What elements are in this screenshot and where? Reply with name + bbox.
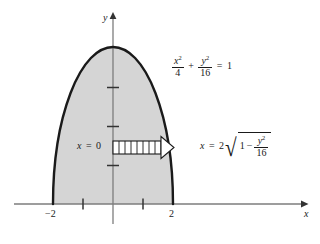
- x-term-denominator: 4: [172, 68, 184, 79]
- left-bound-equals: =: [84, 140, 94, 151]
- ellipse-equation-label: x2 4 + y2 16 = 1: [172, 55, 232, 79]
- x-axis-arrowhead: [301, 200, 309, 207]
- y-term-denominator: 16: [198, 68, 212, 79]
- right-bound-variable: x: [200, 140, 204, 151]
- y-axis-label: y: [103, 12, 107, 23]
- equals-sign: =: [215, 60, 225, 71]
- radicand-fraction-denominator: 16: [254, 148, 268, 159]
- radicand: 1−y216: [238, 132, 272, 159]
- left-bound-label: x = 0: [77, 141, 101, 151]
- ellipse-figure: y x −2 2 x2 4 + y2 16 = 1 x = 0 x = 2√1−…: [0, 0, 320, 244]
- x-tick-label-two: 2: [169, 208, 174, 219]
- equation-rhs: 1: [227, 60, 232, 71]
- right-bound-equals: =: [207, 140, 217, 151]
- radicand-fraction: y216: [254, 135, 268, 159]
- x-tick-label-minus-two: −2: [45, 208, 56, 219]
- square-root: √1−y216: [224, 133, 271, 160]
- y-axis-arrowhead: [110, 12, 117, 19]
- plus-sign: +: [186, 60, 196, 71]
- x-axis-label: x: [304, 208, 308, 219]
- right-bound-label: x = 2√1−y216: [200, 133, 271, 160]
- radicand-minus: −: [245, 140, 255, 151]
- radical-sign: √: [225, 135, 237, 160]
- left-bound-variable: x: [77, 140, 81, 151]
- left-bound-value: 0: [96, 140, 101, 151]
- x-term-fraction: x2 4: [172, 55, 184, 79]
- y-term-fraction: y2 16: [198, 55, 212, 79]
